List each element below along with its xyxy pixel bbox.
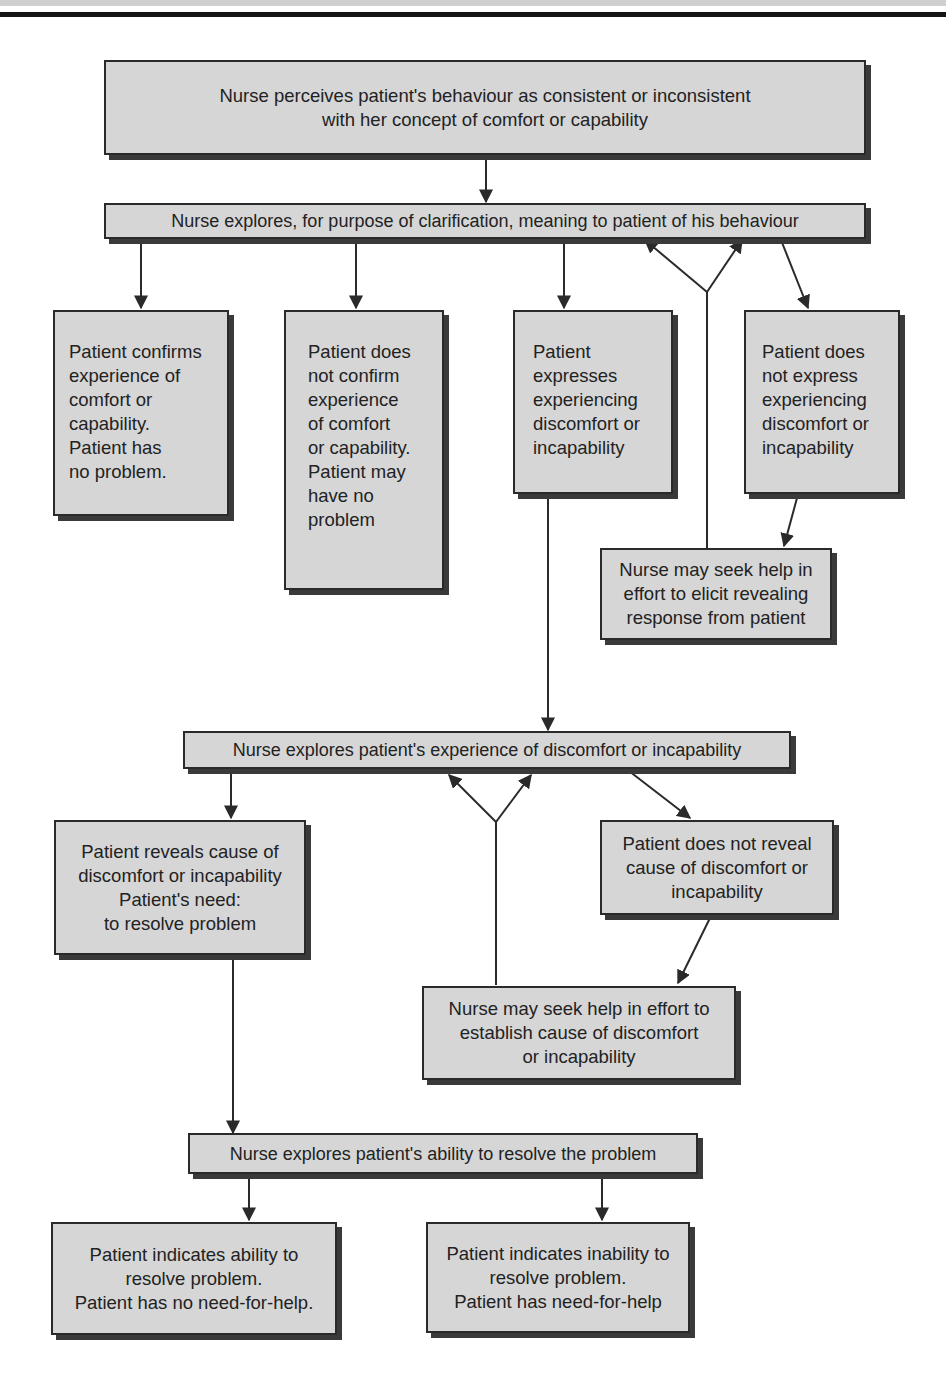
- node-nurse-explores-ability: Nurse explores patient's ability to reso…: [188, 1133, 698, 1174]
- arrow-n10-n11: [678, 918, 710, 983]
- node-text: Nurse explores patient's ability to reso…: [230, 1142, 657, 1166]
- node-text: Nurse may seek help in effort to establi…: [449, 997, 710, 1069]
- node-patient-does-not-reveal: Patient does not reveal cause of discomf…: [600, 820, 834, 915]
- node-patient-does-not-confirm: Patient does not confirm experience of c…: [284, 310, 444, 590]
- node-nurse-explores-discomfort: Nurse explores patient's experience of d…: [183, 731, 791, 769]
- node-patient-does-not-express: Patient does not express experiencing di…: [744, 310, 900, 494]
- node-text: Patient does not express experiencing di…: [762, 341, 869, 458]
- node-text: Nurse explores patient's experience of d…: [233, 738, 742, 762]
- node-nurse-seek-help-establish: Nurse may seek help in effort to establi…: [422, 986, 736, 1080]
- node-text: Nurse perceives patient's behaviour as c…: [219, 84, 750, 132]
- node-text: Patient indicates ability to resolve pro…: [75, 1243, 314, 1315]
- feedback-right-n11: [496, 775, 531, 822]
- node-patient-expresses-discomfort: Patient expresses experiencing discomfor…: [513, 310, 673, 494]
- node-text: Nurse explores, for purpose of clarifica…: [171, 209, 798, 233]
- node-patient-confirms: Patient confirms experience of comfort o…: [53, 310, 229, 516]
- arrow-n8-n10: [629, 771, 690, 818]
- feedback-left-n11: [449, 775, 496, 822]
- node-text: Patient expresses experiencing discomfor…: [533, 341, 640, 458]
- node-text: Nurse may seek help in effort to elicit …: [619, 558, 812, 630]
- node-text: Patient reveals cause of discomfort or i…: [78, 840, 282, 936]
- node-text: Patient confirms experience of comfort o…: [69, 341, 202, 482]
- node-text: Patient indicates inability to resolve p…: [446, 1242, 669, 1314]
- node-patient-indicates-ability: Patient indicates ability to resolve pro…: [51, 1222, 337, 1335]
- arrow-n6-n7: [784, 498, 797, 546]
- arrow-n2-n6: [781, 240, 808, 308]
- feedback-left-n7: [645, 240, 707, 292]
- node-text: Patient does not confirm experience of c…: [308, 341, 411, 530]
- node-text: Patient does not reveal cause of discomf…: [622, 832, 811, 904]
- node-patient-reveals-cause: Patient reveals cause of discomfort or i…: [54, 820, 306, 955]
- feedback-right-n7: [707, 240, 742, 292]
- node-patient-indicates-inability: Patient indicates inability to resolve p…: [426, 1222, 690, 1333]
- node-nurse-explores-meaning: Nurse explores, for purpose of clarifica…: [104, 203, 866, 239]
- node-nurse-perceives-behaviour: Nurse perceives patient's behaviour as c…: [104, 60, 866, 155]
- node-nurse-seek-help-elicit: Nurse may seek help in effort to elicit …: [600, 548, 832, 640]
